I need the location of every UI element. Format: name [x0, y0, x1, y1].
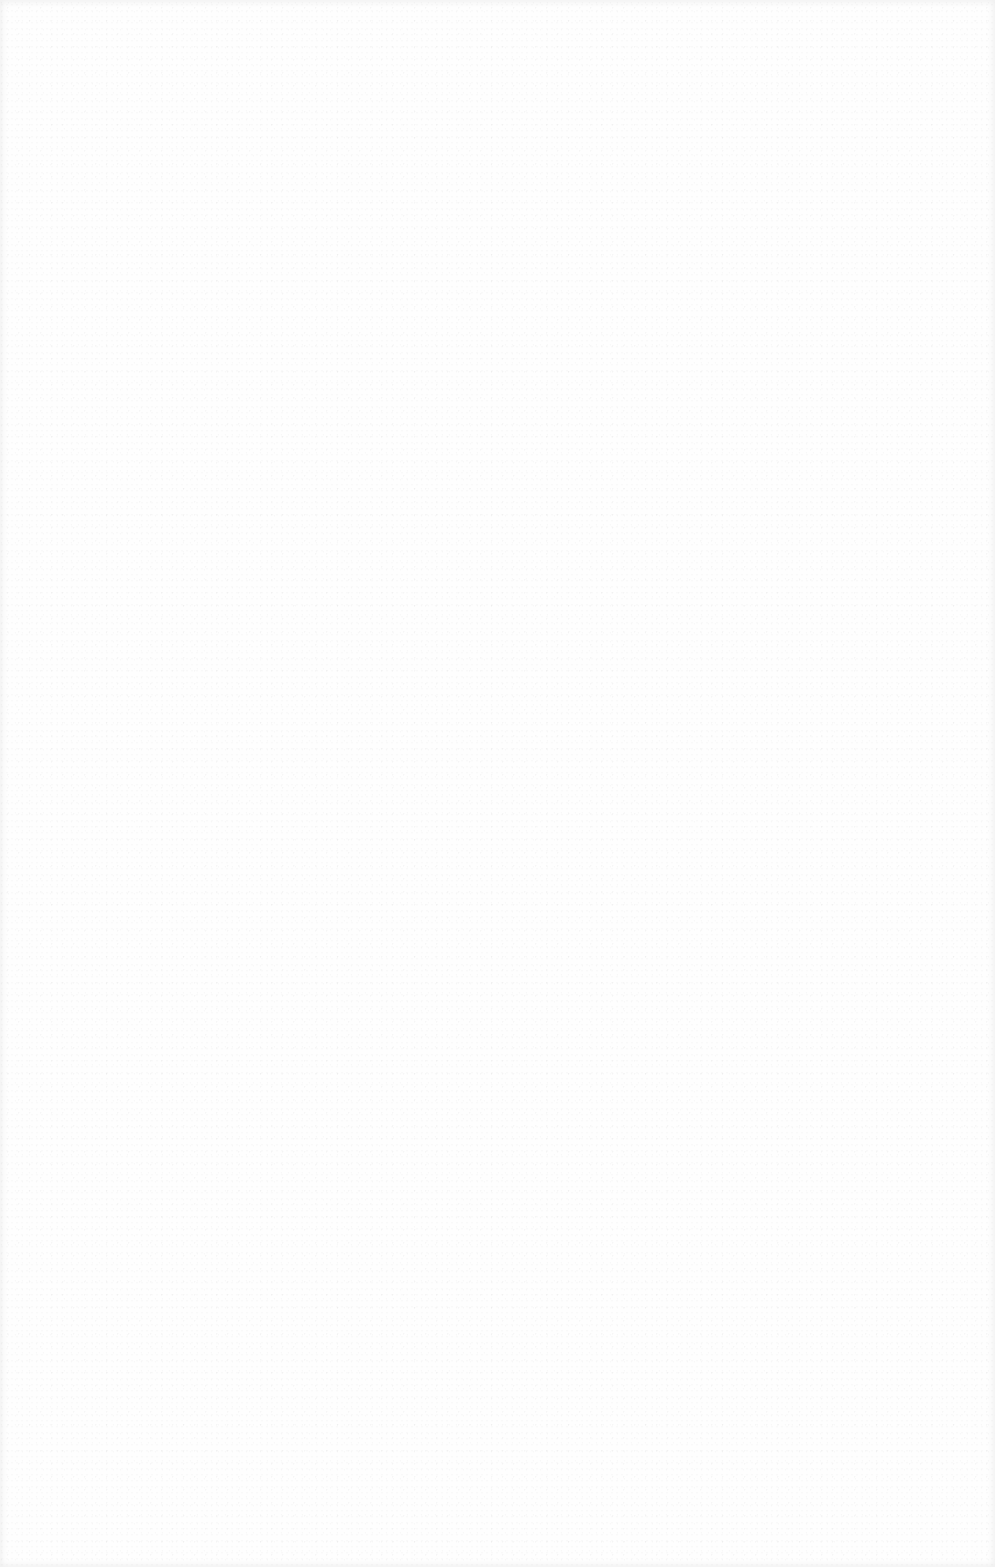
blank-page — [0, 0, 995, 1567]
